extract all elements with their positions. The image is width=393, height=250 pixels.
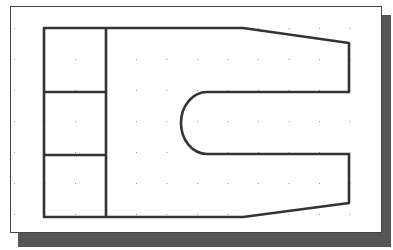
cad-drawing (0, 0, 393, 250)
part-outline (44, 28, 349, 217)
outer-profile (44, 28, 349, 217)
